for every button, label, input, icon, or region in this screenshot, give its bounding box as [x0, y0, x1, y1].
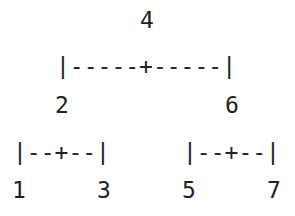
right-connector: |--+--| [183, 138, 280, 166]
root-connector: |-----+-----| [56, 52, 236, 80]
left-connector: |--+--| [13, 138, 110, 166]
leaf-7: 7 [267, 176, 281, 204]
node-left: 2 [55, 91, 69, 119]
node-right: 6 [225, 91, 239, 119]
node-root: 4 [140, 6, 154, 34]
leaf-5: 5 [182, 176, 196, 204]
leaf-3: 3 [97, 176, 111, 204]
leaf-1: 1 [12, 176, 26, 204]
